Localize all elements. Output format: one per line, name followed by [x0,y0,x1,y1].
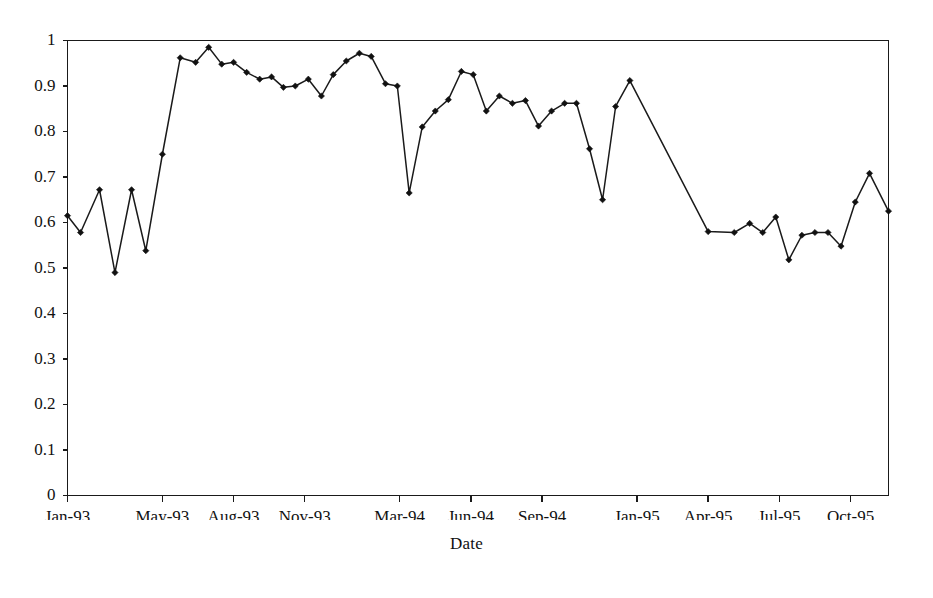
x-axis-tick-label: Mar-94 [374,507,425,521]
y-axis-tick-label: 0.4 [34,303,56,322]
x-axis-tick-label: May-93 [135,507,189,521]
data-point-marker [143,248,149,254]
x-axis-title: Date [0,534,933,554]
x-axis-tick-label: Jun-94 [448,507,495,521]
data-point-marker [159,151,165,157]
data-series-line [68,47,889,272]
data-point-marker [562,100,568,106]
x-axis-tick-label: Nov-93 [279,507,331,521]
data-point-marker [458,68,464,74]
y-axis-tick-label: 0.8 [34,121,55,140]
y-axis-tick-label: 0.2 [34,394,55,413]
plot-frame-axes [68,41,889,496]
x-axis-tick-label: Aug-93 [208,507,260,521]
x-axis-tick-label: Jul-95 [758,507,801,521]
data-point-marker [599,197,605,203]
data-point-marker [573,100,579,106]
data-point-marker [522,97,528,103]
x-axis-tick-label: Jan-95 [614,507,659,521]
data-point-marker [128,187,134,193]
data-point-marker [177,55,183,61]
line-chart: 00.10.20.30.40.50.60.70.80.91 Jan-93May-… [0,0,933,520]
x-axis-tick-label: Jan-93 [45,507,90,521]
data-point-marker [406,190,412,196]
data-point-marker [885,208,891,214]
data-point-marker [799,232,805,238]
data-point-marker [731,229,737,235]
data-point-markers [64,44,891,275]
data-point-marker [356,50,362,56]
x-axis-tick-label: Oct-95 [827,507,874,521]
x-axis-ticks [68,496,851,502]
data-point-marker [382,81,388,87]
y-axis-tick-label: 0.5 [34,258,55,277]
y-axis-tick-label: 0.1 [34,440,55,459]
data-point-marker [627,77,633,83]
x-axis-tick-label: Sep-94 [518,507,567,521]
data-point-marker [705,229,711,235]
x-axis-tick-labels: Jan-93May-93Aug-93Nov-93Mar-94Jun-94Sep-… [45,507,874,521]
data-point-marker [368,53,374,59]
data-point-marker [470,72,476,78]
y-axis-tick-label: 0.9 [34,76,55,95]
y-axis-tick-label: 0.6 [34,212,55,231]
data-point-marker [292,83,298,89]
data-point-marker [257,76,263,82]
data-point-marker [786,257,792,263]
y-axis-tick-label: 1 [47,30,56,49]
y-axis-tick-label: 0 [47,485,56,504]
x-axis-tick-label: Apr-95 [684,507,733,521]
y-axis-tick-label: 0.3 [34,349,55,368]
data-point-marker [112,269,118,275]
data-point-marker [509,100,515,106]
chart-canvas: 00.10.20.30.40.50.60.70.80.91 Jan-93May-… [0,0,933,520]
data-point-marker [613,103,619,109]
figure-caption [30,576,910,598]
data-point-marker [812,229,818,235]
data-point-marker [394,83,400,89]
figure-root: 00.10.20.30.40.50.60.70.80.91 Jan-93May-… [0,0,933,598]
data-point-marker [852,199,858,205]
data-point-marker [866,170,872,176]
y-axis-tick-label: 0.7 [34,167,56,186]
data-point-marker [586,146,592,152]
y-axis-tick-labels: 00.10.20.30.40.50.60.70.80.91 [34,30,56,504]
data-point-marker [96,187,102,193]
